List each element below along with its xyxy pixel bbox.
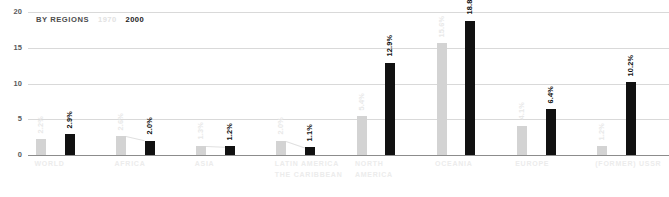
category-label-line1: (FORMER) USSR — [595, 160, 661, 167]
category-label-latin-america-the-caribbean: LATIN AMERICATHE CARIBBEAN — [275, 158, 343, 180]
category-label-africa: AFRICA — [115, 158, 146, 169]
category-axis: WORLDAFRICAASIALATIN AMERICATHE CARIBBEA… — [28, 158, 669, 196]
gridline-10 — [28, 84, 669, 85]
bar-1970-europe: 4.1% — [517, 126, 527, 155]
category-label-former-ussr: (FORMER) USSR — [595, 158, 661, 169]
bar-2000-europe: 6.4% — [546, 109, 556, 155]
axis-baseline — [28, 155, 669, 156]
bar-value-label: 1.2% — [598, 123, 605, 140]
bar-1970-latin-america-the-caribbean: 2.0% — [276, 141, 286, 155]
bar-value-label: 10.2% — [627, 55, 634, 76]
y-axis-tick-10: 10 — [13, 80, 22, 88]
bar-value-label: 1.2% — [226, 123, 233, 140]
category-label-line1: WORLD — [34, 160, 64, 167]
bar-value-label: 12.9% — [386, 35, 393, 56]
legend-series-2000: 2000 — [126, 15, 145, 24]
bar-2000-latin-america-the-caribbean: 1.1% — [305, 147, 315, 155]
bar-1970-world: 2.2% — [36, 139, 46, 155]
bar-value-label: 18.8% — [466, 0, 473, 15]
y-axis-tick-15: 15 — [13, 44, 22, 52]
bar-2000-africa: 2.0% — [145, 141, 155, 155]
y-axis-tick-5: 5 — [18, 116, 22, 124]
bar-value-label: 4.1% — [518, 102, 525, 119]
y-axis: 05101520 — [0, 0, 26, 155]
bar-2000-oceania: 18.8% — [465, 21, 475, 155]
bar-value-label: 2.0% — [277, 117, 284, 134]
trend-connector — [126, 136, 145, 141]
bar-2000-asia: 1.2% — [225, 146, 235, 155]
trend-connector — [286, 141, 305, 148]
bar-value-label: 2.9% — [66, 111, 73, 128]
bar-value-label: 6.4% — [547, 86, 554, 103]
regions-bar-chart: 05101520 2.2%2.9%2.6%2.0%1.3%1.2%2.0%1.1… — [0, 0, 669, 197]
legend-series-1970: 1970 — [98, 15, 117, 24]
bar-1970-north-america: 5.4% — [357, 116, 367, 155]
gridline-15 — [28, 48, 669, 49]
category-label-europe: EUROPE — [515, 158, 549, 169]
gridline-20 — [28, 12, 669, 13]
y-axis-tick-20: 20 — [13, 8, 22, 16]
category-label-oceania: OCEANIA — [435, 158, 473, 169]
bar-value-label: 2.2% — [37, 116, 44, 133]
category-label-line1: ASIA — [195, 160, 215, 167]
bar-value-label: 2.6% — [117, 113, 124, 130]
category-label-line2: THE CARIBBEAN — [275, 169, 343, 180]
legend-title: BY REGIONS — [36, 15, 89, 24]
category-label-line1: EUROPE — [515, 160, 549, 167]
category-label-world: WORLD — [34, 158, 64, 169]
category-label-line1: NORTH — [355, 160, 384, 167]
bar-2000-world: 2.9% — [65, 134, 75, 155]
category-label-line2: AMERICA — [355, 169, 393, 180]
category-label-line1: LATIN AMERICA — [275, 160, 339, 167]
category-label-asia: ASIA — [195, 158, 215, 169]
bar-1970-asia: 1.3% — [196, 146, 206, 155]
plot-area: 2.2%2.9%2.6%2.0%1.3%1.2%2.0%1.1%5.4%12.9… — [28, 12, 669, 155]
bar-value-label: 1.3% — [197, 122, 204, 139]
bar-2000-former-ussr: 10.2% — [626, 82, 636, 155]
bar-value-label: 1.1% — [306, 124, 313, 141]
bar-value-label: 15.6% — [438, 16, 445, 37]
bar-1970-oceania: 15.6% — [437, 43, 447, 155]
trend-connector — [206, 146, 225, 148]
bar-2000-north-america: 12.9% — [385, 63, 395, 155]
bar-1970-former-ussr: 1.2% — [597, 146, 607, 155]
category-label-north-america: NORTHAMERICA — [355, 158, 393, 180]
bar-1970-africa: 2.6% — [116, 136, 126, 155]
bar-value-label: 5.4% — [357, 93, 364, 110]
chart-legend: BY REGIONS 1970 2000 — [36, 14, 149, 25]
y-axis-tick-0: 0 — [18, 151, 22, 159]
category-label-line1: AFRICA — [115, 160, 146, 167]
bar-value-label: 2.0% — [146, 117, 153, 134]
category-label-line1: OCEANIA — [435, 160, 473, 167]
